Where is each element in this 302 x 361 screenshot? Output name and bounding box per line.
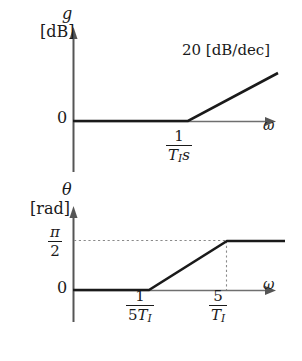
gain-break-frequency-label: 1 TIs	[166, 128, 192, 165]
gain-plot: g [dB] 0 20 [dB/dec] ω 1 TIs	[0, 0, 302, 180]
gain-break-denominator-tail: s	[182, 146, 190, 164]
phase-tick1-denominator-base: T	[138, 306, 148, 324]
gain-y-axis-unit: [dB]	[40, 24, 74, 40]
phase-y-tick-pi-over-2: π 2	[48, 224, 62, 259]
gain-break-denominator-base: T	[168, 146, 178, 164]
phase-asymptote-line	[73, 241, 285, 290]
phase-tick2-numerator: 5	[209, 288, 227, 306]
phase-y-tick-zero: 0	[57, 280, 67, 296]
phase-tick1-fraction: 1 5TI	[126, 288, 154, 325]
phase-y-axis-arrowhead	[70, 206, 78, 218]
phase-tick2-denominator-base: T	[211, 306, 221, 324]
phase-plot: θ [rad] π 2 0 ω 1 5TI 5 TI	[0, 180, 302, 361]
gain-slope-annotation: 20 [dB/dec]	[182, 43, 270, 58]
phase-y-axis-symbol: θ	[62, 182, 72, 198]
gain-x-axis-label: ω	[263, 118, 274, 132]
gain-break-numerator: 1	[166, 128, 192, 146]
phase-pi-denominator: 2	[48, 242, 62, 259]
phase-tick2-denominator-subscript: I	[221, 313, 225, 326]
phase-x-axis-label: ω	[263, 277, 274, 291]
gain-asymptote-line	[73, 73, 278, 121]
gain-break-fraction: 1 TIs	[166, 128, 192, 165]
phase-x-tick-upper-corner: 5 TI	[209, 288, 227, 325]
phase-tick2-denominator: TI	[209, 306, 227, 325]
phase-pi-over-2-fraction: π 2	[48, 224, 62, 259]
gain-y-axis-symbol: g	[62, 6, 72, 22]
phase-x-tick-lower-corner: 1 5TI	[126, 288, 154, 325]
phase-tick1-denominator: 5TI	[126, 306, 154, 325]
phase-tick1-denominator-subscript: I	[148, 313, 152, 326]
phase-tick1-numerator: 1	[126, 288, 154, 306]
gain-break-denominator: TIs	[166, 146, 192, 165]
bode-plot-figure: g [dB] 0 20 [dB/dec] ω 1 TIs	[0, 0, 302, 361]
phase-tick1-denominator-prefix: 5	[128, 306, 138, 324]
gain-y-tick-zero: 0	[57, 110, 67, 126]
phase-y-axis-unit: [rad]	[30, 201, 70, 217]
phase-pi-numerator: π	[48, 224, 62, 242]
phase-tick2-fraction: 5 TI	[209, 288, 227, 325]
